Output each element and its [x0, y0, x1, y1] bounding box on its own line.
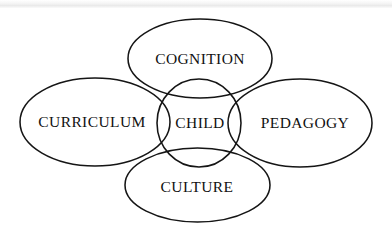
diagram-canvas: COGNITION CURRICULUM PEDAGOGY CULTURE CH… [0, 0, 392, 241]
curriculum-label: CURRICULUM [38, 113, 145, 130]
culture-label: CULTURE [161, 178, 234, 195]
cognition-label: COGNITION [155, 50, 245, 67]
node-culture: CULTURE [125, 148, 270, 222]
child-label: CHILD [175, 114, 224, 131]
pedagogy-label: PEDAGOGY [261, 114, 349, 131]
node-curriculum: CURRICULUM [20, 78, 170, 166]
venn-diagram: COGNITION CURRICULUM PEDAGOGY CULTURE CH… [0, 0, 392, 241]
node-cognition: COGNITION [128, 19, 272, 98]
node-pedagogy: PEDAGOGY [228, 79, 372, 167]
